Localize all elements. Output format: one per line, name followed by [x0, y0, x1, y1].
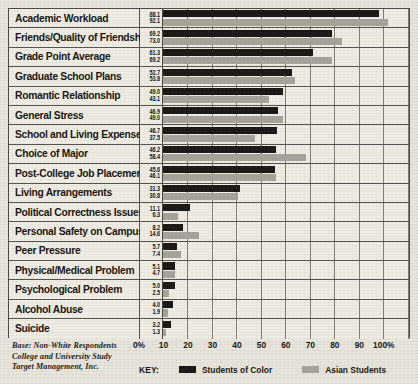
bar-group	[163, 261, 409, 279]
bar-students-of-color	[163, 204, 190, 211]
category-label-cell: Suicide	[9, 319, 140, 338]
bar-asian-students	[163, 232, 199, 239]
category-label-cell: Physical/Medical Problem	[9, 261, 140, 279]
category-label: Living Arrangements	[15, 187, 112, 199]
x-tick-label: 100%	[373, 339, 394, 351]
bar-asian-students	[163, 135, 255, 142]
bar-asian-students	[163, 19, 388, 26]
bar-group	[163, 67, 409, 85]
value-cell: 52.753.8	[140, 67, 163, 85]
bar-students-of-color	[163, 88, 283, 95]
category-label-cell: Friends/Quality of Friendships	[9, 28, 140, 46]
legend-item: Asian Students	[302, 365, 386, 375]
category-label: Psychological Problem	[15, 283, 122, 295]
chart-footnote: Base: Non-White Respondents College and …	[12, 341, 136, 373]
bar-students-of-color	[163, 224, 183, 231]
bar-group	[163, 164, 409, 182]
bar-group	[163, 28, 409, 46]
plot-cell	[163, 28, 409, 46]
bar-students-of-color	[163, 127, 277, 134]
legend-label: Students of Color	[202, 364, 272, 375]
bar-students-of-color	[163, 10, 379, 17]
bar-group	[163, 203, 409, 221]
category-label-cell: Psychological Problem	[9, 280, 140, 298]
value-cell: 4.01.9	[140, 300, 163, 318]
chart-sheet: Academic Workload88.192.1Friends/Quality…	[0, 0, 418, 384]
bar-group	[163, 280, 409, 298]
bar-asian-students	[163, 251, 181, 258]
footnote-line-3: Target Management, Inc.	[12, 362, 136, 373]
chart-row: Choice of Major46.258.4	[9, 145, 409, 164]
legend-label: Asian Students	[325, 364, 386, 375]
plot-cell	[163, 67, 409, 85]
chart-row: Living Arrangements31.330.8	[9, 184, 409, 203]
bar-asian-students	[163, 77, 295, 84]
category-label: Romantic Relationship	[15, 90, 120, 102]
category-label-cell: Romantic Relationship	[9, 87, 140, 105]
bar-asian-students	[163, 271, 175, 278]
value-asian-students: 7.4	[153, 250, 160, 258]
category-label-cell: Academic Workload	[9, 9, 140, 27]
value-cell: 5.77.4	[140, 242, 163, 260]
value-asian-students: 6.3	[153, 212, 160, 220]
value-cell: 11.16.3	[140, 203, 163, 221]
chart-legend: KEY: Students of ColorAsian Students	[139, 363, 416, 376]
category-label-cell: School and Living Expenses	[9, 125, 140, 143]
category-label: Post-College Job Placement	[15, 167, 146, 179]
x-tick-label: 30	[208, 339, 217, 351]
x-tick-label: 70	[306, 339, 315, 351]
value-cell: 5.14.7	[140, 261, 163, 279]
x-axis-ticks: 0%102030405060708090100%	[139, 340, 410, 353]
plot-cell	[163, 125, 409, 143]
x-tick-label: 40	[232, 339, 241, 351]
category-label: Graduate School Plans	[15, 70, 121, 82]
bar-students-of-color	[163, 262, 175, 269]
category-label-cell: Graduate School Plans	[9, 67, 140, 85]
bar-group	[163, 125, 409, 143]
plot-cell	[163, 300, 409, 318]
bar-group	[163, 319, 409, 338]
value-asian-students: 53.8	[150, 76, 161, 84]
category-label-cell: Peer Pressure	[9, 242, 140, 260]
plot-cell	[163, 280, 409, 298]
bar-group	[163, 48, 409, 66]
category-label: Physical/Medical Problem	[15, 264, 134, 276]
chart-row: Personal Safety on Campus8.214.6	[9, 222, 409, 241]
plot-cell	[163, 106, 409, 124]
bar-group	[163, 300, 409, 318]
value-asian-students: 43.1	[150, 95, 161, 103]
x-tick-label: 10	[159, 339, 168, 351]
category-label: Personal Safety on Campus	[15, 225, 144, 237]
bar-asian-students	[163, 174, 276, 181]
x-tick-label: 20	[183, 339, 192, 351]
category-label: Friends/Quality of Friendships	[15, 31, 155, 43]
x-tick-label: 50	[257, 339, 266, 351]
bar-chart-table: Academic Workload88.192.1Friends/Quality…	[8, 8, 410, 338]
bar-group	[163, 87, 409, 105]
category-label: Grade Point Average	[15, 51, 110, 63]
bar-students-of-color	[163, 282, 175, 289]
bar-students-of-color	[163, 30, 332, 37]
bar-students-of-color	[163, 243, 177, 250]
bar-students-of-color	[163, 107, 278, 114]
value-asian-students: 4.7	[153, 270, 160, 278]
chart-row: Friends/Quality of Friendships69.273.0	[9, 28, 409, 47]
bar-group	[163, 106, 409, 124]
x-tick-label: 90	[355, 339, 364, 351]
category-label: Academic Workload	[15, 12, 108, 24]
bar-students-of-color	[163, 321, 171, 328]
plot-cell	[163, 242, 409, 260]
footnote-line-1: Base: Non-White Respondents	[12, 341, 136, 352]
legend-swatch-asian-students	[302, 366, 319, 374]
category-label-cell: Personal Safety on Campus	[9, 222, 140, 240]
value-cell: 45.646.1	[140, 164, 163, 182]
category-label: Political Correctness Issues	[15, 206, 144, 218]
chart-row: Post-College Job Placement45.646.1	[9, 164, 409, 183]
x-tick-label: 80	[330, 339, 339, 351]
category-label-cell: Post-College Job Placement	[9, 164, 140, 182]
bar-asian-students	[163, 193, 238, 200]
bar-asian-students	[163, 57, 332, 64]
footnote-line-2: College and University Study	[12, 352, 136, 363]
category-label: Alcohol Abuse	[15, 303, 83, 315]
chart-row: Psychological Problem5.02.5	[9, 280, 409, 299]
